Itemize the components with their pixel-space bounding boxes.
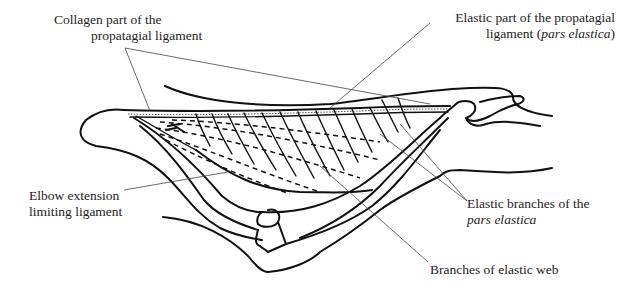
label-elastic-branches: Elastic branches of the pars elastica xyxy=(467,196,590,228)
leader-web-branches xyxy=(320,166,428,262)
label-elastic-part-line2: ligament (pars elastica) xyxy=(430,26,615,42)
label-collagen-line2: propatagial ligament xyxy=(54,28,202,44)
label-elbow: Elbow extension limiting ligament xyxy=(29,188,122,220)
label-collagen: Collagen part of the propatagial ligamen… xyxy=(54,12,202,44)
label-collagen-line1: Collagen part of the xyxy=(54,12,202,28)
label-web-branches: Branches of elastic web xyxy=(430,262,559,278)
label-elastic-branches-line1: Elastic branches of the xyxy=(467,196,590,212)
label-elastic-part: Elastic part of the propatagial ligament… xyxy=(430,10,615,42)
label-web-branches-line1: Branches of elastic web xyxy=(430,262,559,278)
elbow-joint xyxy=(256,210,286,252)
leader-elastic-part xyxy=(330,23,430,108)
label-elastic-part-line1: Elastic part of the propatagial xyxy=(430,10,615,26)
label-text: ) xyxy=(611,26,616,41)
label-elastic-branches-line2: pars elastica xyxy=(467,212,590,228)
label-elbow-line2: limiting ligament xyxy=(29,204,122,220)
leader-collagen-2 xyxy=(125,48,430,104)
label-elbow-line1: Elbow extension xyxy=(29,188,122,204)
leader-collagen-1 xyxy=(125,48,150,111)
label-italic-term: pars elastica xyxy=(541,26,610,41)
ulna xyxy=(300,118,448,238)
leader-elastic-branches-1 xyxy=(400,124,467,201)
label-text: ligament ( xyxy=(486,26,541,41)
wrist-hand xyxy=(440,96,540,126)
anatomy-figure: Collagen part of the propatagial ligamen… xyxy=(0,0,631,288)
ulna-2 xyxy=(262,118,440,212)
pars-elastica-lower-line xyxy=(130,112,448,117)
leader-elastic-branches-2 xyxy=(380,134,467,201)
